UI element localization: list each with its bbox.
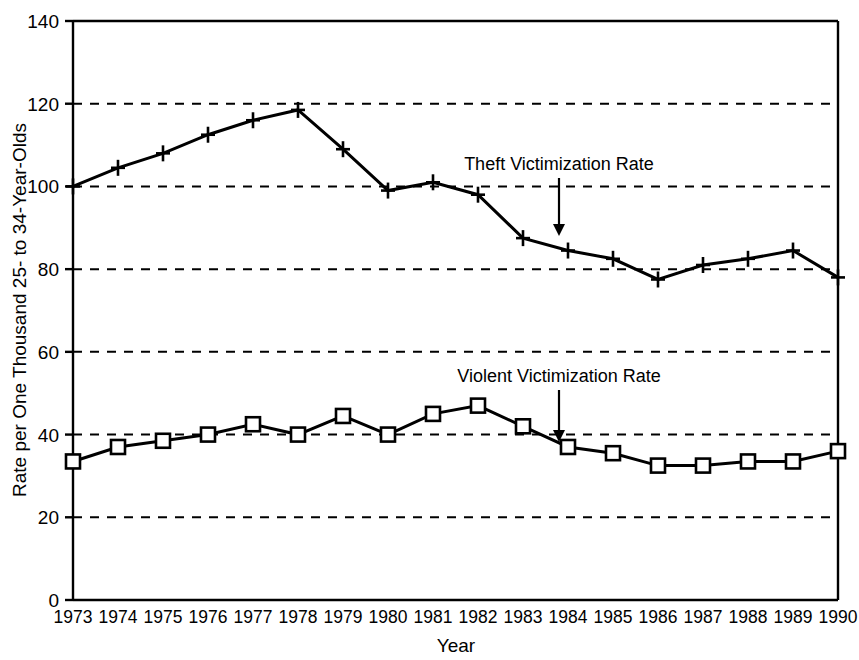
chart-figure: 020406080100120140 197319741975197619771… (0, 0, 859, 660)
data-point-marker (66, 454, 80, 468)
x-tick-label-1981: 1981 (414, 607, 453, 627)
y-tick-label-120: 120 (27, 94, 59, 115)
series-markers (66, 102, 845, 473)
data-point-marker (111, 440, 125, 454)
data-point-marker (606, 251, 620, 267)
x-axis-title: Year (437, 635, 476, 656)
data-point-marker (426, 407, 440, 421)
x-tick-label-1984: 1984 (549, 607, 588, 627)
x-tick-label-1977: 1977 (234, 607, 273, 627)
data-point-marker (201, 428, 215, 442)
y-tick-label-140: 140 (27, 11, 59, 32)
data-point-marker (786, 243, 800, 259)
x-tick-label-1982: 1982 (459, 607, 498, 627)
x-axis-tick-labels: 1973197419751976197719781979198019811982… (54, 607, 858, 627)
gridlines (73, 104, 838, 518)
data-point-marker (561, 243, 575, 259)
x-tick-label-1983: 1983 (504, 607, 543, 627)
data-point-marker (831, 269, 845, 285)
data-point-marker (696, 257, 710, 273)
x-tick-label-1989: 1989 (774, 607, 813, 627)
data-point-marker (471, 399, 485, 413)
data-point-marker (201, 127, 215, 143)
data-point-marker (606, 446, 620, 460)
x-tick-label-1988: 1988 (729, 607, 768, 627)
x-tick-label-1980: 1980 (369, 607, 408, 627)
data-point-marker (741, 251, 755, 267)
data-point-marker (66, 178, 80, 194)
data-point-marker (426, 174, 440, 190)
x-tick-label-1975: 1975 (144, 607, 183, 627)
x-tick-label-1976: 1976 (189, 607, 228, 627)
y-tick-label-100: 100 (27, 176, 59, 197)
x-tick-label-1985: 1985 (594, 607, 633, 627)
line-chart: 020406080100120140 197319741975197619771… (0, 0, 859, 660)
data-point-marker (696, 459, 710, 473)
data-point-marker (786, 454, 800, 468)
data-point-marker (516, 419, 530, 433)
x-tick-label-1986: 1986 (639, 607, 678, 627)
y-tick-label-20: 20 (38, 507, 59, 528)
series-lines (73, 110, 838, 466)
data-point-marker (561, 440, 575, 454)
data-point-marker (291, 428, 305, 442)
series-annotations: Theft Victimization RateViolent Victimiz… (457, 154, 660, 442)
annotation-label-1: Violent Victimization Rate (457, 366, 660, 386)
x-tick-label-1987: 1987 (684, 607, 723, 627)
plot-frame (73, 21, 838, 600)
series-line-0 (73, 110, 838, 280)
x-tick-label-1979: 1979 (324, 607, 363, 627)
data-point-marker (336, 409, 350, 423)
series-line-1 (73, 406, 838, 466)
annotation-label-0: Theft Victimization Rate (464, 154, 654, 174)
x-tick-label-1978: 1978 (279, 607, 318, 627)
annotation-arrow-head-0 (553, 224, 565, 236)
y-axis-tick-labels: 020406080100120140 (27, 11, 59, 611)
data-point-marker (156, 434, 170, 448)
data-point-marker (246, 417, 260, 431)
data-point-marker (111, 160, 125, 176)
data-point-marker (246, 112, 260, 128)
x-tick-label-1990: 1990 (819, 607, 858, 627)
data-point-marker (651, 271, 665, 287)
y-tick-label-60: 60 (38, 342, 59, 363)
y-tick-label-80: 80 (38, 259, 59, 280)
y-axis-title: Rate per One Thousand 25- to 34-Year-Old… (9, 123, 30, 497)
x-tick-label-1974: 1974 (99, 607, 138, 627)
data-point-marker (831, 444, 845, 458)
data-point-marker (381, 428, 395, 442)
x-tick-label-1973: 1973 (54, 607, 93, 627)
y-tick-label-40: 40 (38, 425, 59, 446)
data-point-marker (651, 459, 665, 473)
data-point-marker (156, 145, 170, 161)
data-point-marker (741, 454, 755, 468)
